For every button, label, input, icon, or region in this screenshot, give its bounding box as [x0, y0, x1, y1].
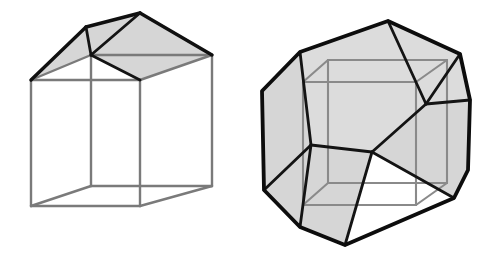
polyhedra-illustration — [0, 0, 495, 262]
figure-canvas — [0, 0, 495, 262]
